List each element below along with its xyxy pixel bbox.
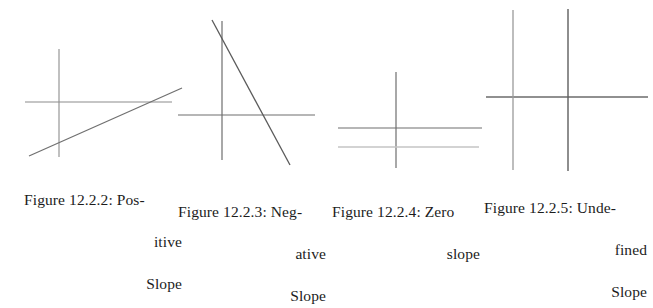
caption-line-2: slope [332,243,480,264]
figure-positive-slope: Figure 12.2.2: Pos- itive Slope [0,0,190,258]
figure-zero-slope: Figure 12.2.4: Zero slope [326,0,486,258]
figure-caption-negative-slope: Figure 12.2.3: Neg- ative Slope [178,180,326,308]
caption-line-2: fined [484,239,647,260]
figure-negative-slope: Figure 12.2.3: Neg- ative Slope [168,0,330,258]
caption-line-3: Slope [178,285,326,306]
caption-line-3: Slope [24,273,182,294]
caption-line-3: Slope [484,281,647,302]
negative-slope-graph [168,0,330,180]
caption-line-2: ative [178,243,326,264]
positive-slope-graph [0,0,190,170]
undefined-slope-graph [478,0,653,175]
caption-line-1: Figure 12.2.3: Neg- [178,201,326,222]
caption-line-1: Figure 12.2.5: Unde- [484,197,647,218]
caption-line-2: itive [24,231,182,252]
figure-caption-zero-slope: Figure 12.2.4: Zero slope [332,180,480,285]
caption-line-1: Figure 12.2.4: Zero [332,201,480,222]
negative-slope-line [212,20,290,165]
figure-caption-undefined-slope: Figure 12.2.5: Unde- fined Slope [484,176,647,308]
zero-slope-graph [326,0,486,180]
figure-undefined-slope: Figure 12.2.5: Unde- fined Slope [478,0,653,258]
figure-caption-positive-slope: Figure 12.2.2: Pos- itive Slope [24,168,182,308]
caption-line-1: Figure 12.2.2: Pos- [24,189,182,210]
positive-slope-line [29,88,182,156]
